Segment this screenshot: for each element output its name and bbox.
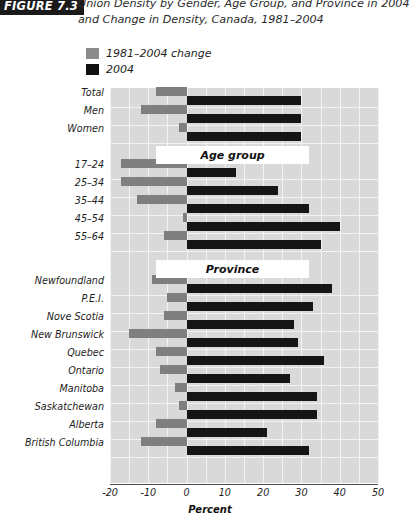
chart-legend: 1981–2004 change 2004 [86,46,211,78]
bar-2004 [187,284,332,293]
row-separator [110,251,378,252]
gridline [359,88,360,483]
x-tick-label: 40 [334,487,346,498]
row-separator [110,349,378,350]
row-separator [110,295,378,296]
bar-2004 [187,168,237,177]
bar-change [175,383,186,392]
y-axis-label: Women [0,123,104,134]
x-tick-label: -20 [102,487,118,498]
legend-label-change: 1981–2004 change [106,47,211,60]
bar-change [141,437,187,446]
y-axis-label: 25–34 [0,177,104,188]
x-tick-label: 30 [295,487,307,498]
bar-change [137,195,187,204]
y-axis-label: 35–44 [0,195,104,206]
y-axis-label: 55–64 [0,231,104,242]
gridline [148,88,149,483]
bar-2004 [187,392,317,401]
bar-change [164,311,187,320]
bar-2004 [187,222,340,231]
row-separator [110,233,378,234]
bar-change [183,213,187,222]
legend-item-change: 1981–2004 change [86,46,211,60]
y-axis-label: P.E.I. [0,293,104,304]
gridline [378,88,379,483]
bar-change [156,347,187,356]
figure-header: FIGURE 7.3 Union Density by Gender, Age … [0,0,420,34]
bar-change [179,401,187,410]
bar-2004 [187,356,325,365]
x-tick-label: 20 [257,487,269,498]
bar-2004 [187,302,313,311]
x-tick-label: 10 [219,487,231,498]
x-tick-label: -10 [140,487,156,498]
bar-change [167,293,186,302]
bar-2004 [187,132,302,141]
row-separator [110,421,378,422]
bar-change [156,87,187,96]
y-axis-label: New Brunswick [0,329,104,340]
y-axis-label: British Columbia [0,437,104,448]
legend-item-2004: 2004 [86,62,211,76]
bar-2004 [187,338,298,347]
bar-2004 [187,446,310,455]
x-tick-label: 50 [372,487,384,498]
x-axis-title: Percent [0,504,420,515]
gridline [110,88,111,483]
bar-2004 [187,186,279,195]
figure-title: Union Density by Gender, Age Group, and … [78,0,418,27]
row-separator [110,215,378,216]
black-swatch-icon [86,64,99,75]
gridline [340,88,341,483]
y-axis-label: Saskatchewan [0,401,104,412]
bar-2004 [187,320,294,329]
y-axis-label: Total [0,87,104,98]
row-separator [110,125,378,126]
y-axis-label: Nove Scotia [0,311,104,322]
y-axis-label: Newfoundland [0,275,104,286]
row-separator [110,385,378,386]
y-axis-label: Men [0,105,104,116]
bar-change [160,365,187,374]
y-axis-label: Quebec [0,347,104,358]
bar-change [179,123,187,132]
bar-change [141,105,187,114]
bar-2004 [187,96,302,105]
bar-change [164,231,187,240]
y-axis-label: 45–54 [0,213,104,224]
figure-number: FIGURE 7.3 [0,0,84,15]
bar-change [156,419,187,428]
row-separator [110,367,378,368]
row-separator [110,457,378,458]
x-axis-line [110,484,378,485]
bar-2004 [187,428,267,437]
row-separator [110,313,378,314]
gridline [129,88,130,483]
bar-change [129,329,186,338]
y-axis-label: Manitoba [0,383,104,394]
bar-2004 [187,240,321,249]
row-separator [110,143,378,144]
bar-2004 [187,204,310,213]
legend-label-2004: 2004 [106,63,134,76]
row-separator [110,403,378,404]
group-band-label: Age group [156,146,309,164]
chart-plot-area: Age groupProvince [110,88,378,483]
y-axis-label: Alberta [0,419,104,430]
bar-2004 [187,374,290,383]
x-tick-label: 0 [184,487,190,498]
gray-swatch-icon [86,48,99,59]
bar-2004 [187,114,302,123]
bar-2004 [187,410,317,419]
group-band-label: Province [156,260,309,278]
y-axis-label: Ontario [0,365,104,376]
y-axis-label: 17–24 [0,159,104,170]
bar-change [121,177,186,186]
